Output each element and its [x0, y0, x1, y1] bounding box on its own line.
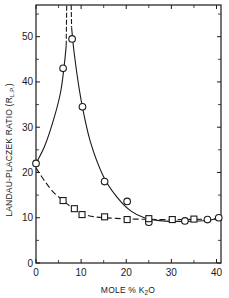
square-series-curve [36, 168, 219, 220]
y-tick-label: 50 [22, 31, 34, 42]
circle-data-point [182, 218, 189, 225]
circle-series-curve-right [72, 28, 219, 222]
circle-data-point [215, 214, 222, 221]
square-data-point [79, 212, 85, 218]
square-data-point [191, 216, 197, 222]
x-tick-label: 20 [121, 267, 133, 278]
x-tick-label: 30 [166, 267, 178, 278]
x-axis-title: MOLE % K2O [101, 285, 155, 296]
circle-data-point [124, 198, 131, 205]
y-axis-title: LANDAU-PLACZEK RATIO (RL.P.) [4, 83, 15, 216]
circle-data-point [69, 36, 76, 43]
circle-data-point [60, 65, 67, 72]
plot-frame [36, 5, 221, 263]
x-tick-label: 10 [76, 267, 88, 278]
plot-border [36, 5, 221, 263]
circle-data-point [79, 104, 86, 111]
x-tick-label: 40 [211, 267, 223, 278]
x-axis-ticks: 010203040 [33, 5, 222, 278]
fitted-curves [36, 5, 219, 221]
y-tick-label: 40 [22, 76, 34, 87]
square-data-point [146, 216, 152, 222]
circle-series-asymptote-left [66, 5, 67, 46]
y-axis-ticks: 01020304050 [22, 14, 221, 268]
data-markers [33, 36, 222, 226]
square-data-point [60, 198, 66, 204]
circle-series-curve-left [36, 46, 66, 164]
circle-data-point [101, 178, 108, 185]
square-data-point [102, 214, 108, 220]
y-tick-label: 20 [22, 167, 34, 178]
x-tick-label: 0 [33, 267, 39, 278]
y-tick-label: 10 [22, 212, 34, 223]
y-tick-label: 30 [22, 122, 34, 133]
chart: 01020304050 010203040 MOLE % K2O LANDAU-… [0, 0, 229, 298]
square-data-point [124, 217, 130, 223]
square-data-point [169, 217, 175, 223]
square-data-point [71, 206, 77, 212]
circle-data-point [33, 160, 40, 167]
circle-data-point [204, 216, 211, 223]
